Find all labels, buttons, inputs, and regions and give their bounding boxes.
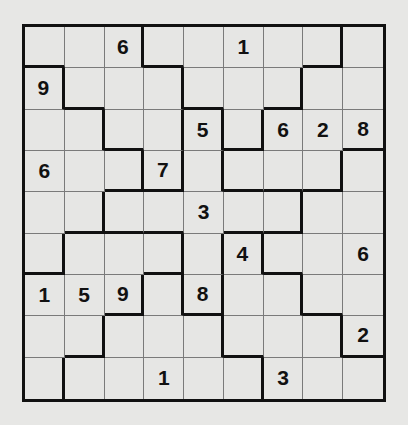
given-cell[interactable]: 8 xyxy=(343,110,383,151)
given-cell[interactable]: 8 xyxy=(184,275,224,316)
empty-cell[interactable] xyxy=(343,68,383,109)
empty-cell[interactable] xyxy=(184,151,224,192)
empty-cell[interactable] xyxy=(25,316,65,357)
empty-cell[interactable] xyxy=(343,192,383,233)
given-cell[interactable]: 1 xyxy=(224,27,264,68)
empty-cell[interactable] xyxy=(264,275,304,316)
empty-cell[interactable] xyxy=(65,110,105,151)
empty-cell[interactable] xyxy=(144,110,184,151)
empty-cell[interactable] xyxy=(264,234,304,275)
empty-cell[interactable] xyxy=(303,68,343,109)
empty-cell[interactable] xyxy=(184,234,224,275)
empty-cell[interactable] xyxy=(144,234,184,275)
given-cell[interactable]: 2 xyxy=(343,316,383,357)
empty-cell[interactable] xyxy=(343,275,383,316)
empty-cell[interactable] xyxy=(105,358,145,399)
given-cell[interactable]: 6 xyxy=(343,234,383,275)
empty-cell[interactable] xyxy=(343,358,383,399)
empty-cell[interactable] xyxy=(224,192,264,233)
given-cell[interactable]: 1 xyxy=(144,358,184,399)
empty-cell[interactable] xyxy=(65,151,105,192)
empty-cell[interactable] xyxy=(224,110,264,151)
empty-cell[interactable] xyxy=(65,68,105,109)
empty-cell[interactable] xyxy=(105,68,145,109)
empty-cell[interactable] xyxy=(184,316,224,357)
empty-cell[interactable] xyxy=(105,234,145,275)
empty-cell[interactable] xyxy=(264,151,304,192)
empty-cell[interactable] xyxy=(144,68,184,109)
given-cell[interactable]: 3 xyxy=(264,358,304,399)
empty-cell[interactable] xyxy=(25,234,65,275)
empty-cell[interactable] xyxy=(264,68,304,109)
empty-cell[interactable] xyxy=(144,275,184,316)
empty-cell[interactable] xyxy=(303,275,343,316)
empty-cell[interactable] xyxy=(65,316,105,357)
given-cell[interactable]: 4 xyxy=(224,234,264,275)
given-cell[interactable]: 6 xyxy=(25,151,65,192)
empty-cell[interactable] xyxy=(144,27,184,68)
empty-cell[interactable] xyxy=(105,151,145,192)
empty-cell[interactable] xyxy=(303,151,343,192)
given-cell[interactable]: 1 xyxy=(25,275,65,316)
given-cell[interactable]: 6 xyxy=(105,27,145,68)
empty-cell[interactable] xyxy=(224,358,264,399)
empty-cell[interactable] xyxy=(303,316,343,357)
empty-cell[interactable] xyxy=(184,27,224,68)
empty-cell[interactable] xyxy=(105,316,145,357)
empty-cell[interactable] xyxy=(25,192,65,233)
empty-cell[interactable] xyxy=(144,192,184,233)
empty-cell[interactable] xyxy=(65,27,105,68)
empty-cell[interactable] xyxy=(303,234,343,275)
given-cell[interactable]: 3 xyxy=(184,192,224,233)
empty-cell[interactable] xyxy=(184,358,224,399)
empty-cell[interactable] xyxy=(303,192,343,233)
empty-cell[interactable] xyxy=(224,275,264,316)
empty-cell[interactable] xyxy=(65,234,105,275)
given-cell[interactable]: 5 xyxy=(184,110,224,151)
empty-cell[interactable] xyxy=(65,192,105,233)
empty-cell[interactable] xyxy=(303,358,343,399)
empty-cell[interactable] xyxy=(264,192,304,233)
empty-cell[interactable] xyxy=(105,110,145,151)
empty-cell[interactable] xyxy=(224,151,264,192)
empty-cell[interactable] xyxy=(105,192,145,233)
empty-cell[interactable] xyxy=(65,358,105,399)
empty-cell[interactable] xyxy=(343,27,383,68)
empty-cell[interactable] xyxy=(184,68,224,109)
empty-cell[interactable] xyxy=(264,316,304,357)
empty-cell[interactable] xyxy=(25,110,65,151)
given-cell[interactable]: 6 xyxy=(264,110,304,151)
empty-cell[interactable] xyxy=(224,316,264,357)
empty-cell[interactable] xyxy=(264,27,304,68)
empty-cell[interactable] xyxy=(303,27,343,68)
empty-cell[interactable] xyxy=(224,68,264,109)
given-cell[interactable]: 7 xyxy=(144,151,184,192)
given-cell[interactable]: 9 xyxy=(105,275,145,316)
given-cell[interactable]: 9 xyxy=(25,68,65,109)
empty-cell[interactable] xyxy=(144,316,184,357)
empty-cell[interactable] xyxy=(343,151,383,192)
given-cell[interactable]: 2 xyxy=(303,110,343,151)
given-cell[interactable]: 5 xyxy=(65,275,105,316)
jigsaw-sudoku-board: 6195628673461598213 xyxy=(22,24,386,402)
empty-cell[interactable] xyxy=(25,358,65,399)
empty-cell[interactable] xyxy=(25,27,65,68)
